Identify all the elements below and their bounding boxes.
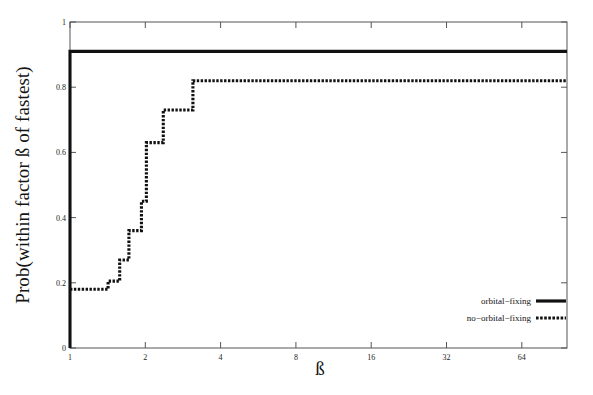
legend-line-sample-dotted xyxy=(536,313,566,323)
legend-item-no-orbital-fixing: no−orbital−fixing xyxy=(438,309,566,326)
legend-line-sample-solid xyxy=(536,296,566,306)
x-tick-label-32: 32 xyxy=(443,353,451,362)
x-tick-label-16: 16 xyxy=(367,353,375,362)
series-line-no-orbital-fixing xyxy=(70,81,567,290)
y-tick-label-0p8: 0.8 xyxy=(44,83,66,92)
y-tick-label-0p4: 0.4 xyxy=(44,213,66,222)
legend-label-orbital-fixing: orbital−fixing xyxy=(481,296,531,306)
x-tick-label-1: 1 xyxy=(68,353,72,362)
x-tick-label-4: 4 xyxy=(219,353,223,362)
legend-label-no-orbital-fixing: no−orbital−fixing xyxy=(467,313,531,323)
legend-item-orbital-fixing: orbital−fixing xyxy=(438,292,566,309)
y-tick-label-0p2: 0.2 xyxy=(44,278,66,287)
plot-canvas xyxy=(0,0,593,395)
x-tick-label-64: 64 xyxy=(518,353,526,362)
y-tick-label-0p6: 0.6 xyxy=(44,148,66,157)
x-tick-label-2: 2 xyxy=(143,353,147,362)
y-tick-label-1: 1 xyxy=(44,18,66,27)
x-tick-label-8: 8 xyxy=(294,353,298,362)
y-tick-label-0: 0 xyxy=(44,344,66,353)
performance-profile-figure: Prob(within factor ß of fastest) ß 12481… xyxy=(0,0,593,395)
chart-legend: orbital−fixing no−orbital−fixing xyxy=(438,292,566,326)
